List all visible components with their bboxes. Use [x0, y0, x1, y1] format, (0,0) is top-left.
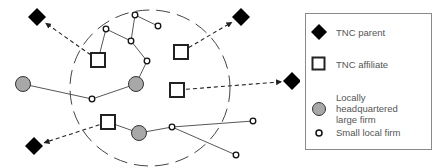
- ownership-arrow: [186, 82, 281, 89]
- tnc-parent-diamond-icon: [25, 137, 43, 155]
- tnc-parent-diamond-icon: [283, 72, 300, 90]
- ownership-arrow: [189, 23, 232, 48]
- legend-label: Locally headquartered large firm: [336, 92, 418, 125]
- ownership-linkages: [44, 23, 281, 143]
- small-firm-circle-icon: [128, 38, 134, 44]
- tnc-affiliate-square-icon: [91, 53, 105, 67]
- firm-network-diagram: [0, 0, 300, 168]
- small-firm-circle-icon: [103, 26, 109, 32]
- ownership-arrow: [44, 125, 99, 143]
- small-firm-circle-icon: [89, 96, 95, 102]
- tnc-parent-diamond-icon: [28, 8, 46, 26]
- firm-nodes: [16, 8, 301, 158]
- small-firm-circle-icon: [169, 124, 175, 130]
- local-region-boundary: [70, 10, 230, 166]
- local-region-dashed-boundary: [70, 10, 230, 166]
- tnc-parent-diamond-icon: [232, 8, 250, 26]
- legend-label: TNC parent: [336, 27, 385, 38]
- hollow-square-icon: [311, 56, 327, 72]
- tnc-affiliate-square-icon: [174, 45, 188, 59]
- small-hollow-circle-icon: [314, 128, 324, 138]
- legend-label: Small local firm: [336, 127, 400, 138]
- large-firm-circle-icon: [129, 77, 144, 92]
- small-firm-circle-icon: [250, 118, 256, 124]
- small-firm-circle-icon: [233, 152, 239, 158]
- ownership-arrow: [46, 23, 91, 54]
- large-firm-circle-icon: [132, 126, 147, 141]
- local-link: [172, 127, 236, 155]
- grey-circle-icon: [311, 101, 327, 117]
- legend-item-tnc-parent: TNC parent: [306, 24, 431, 40]
- local-link: [106, 29, 131, 41]
- black-diamond-icon: [311, 24, 327, 40]
- local-link: [131, 15, 135, 41]
- small-firm-circle-icon: [132, 12, 138, 18]
- tnc-affiliate-square-icon: [170, 83, 184, 97]
- legend: TNC parent TNC affiliate Locally headqua…: [305, 13, 432, 150]
- local-link: [131, 41, 147, 61]
- tnc-affiliate-square-icon: [101, 115, 115, 129]
- small-firm-circle-icon: [155, 23, 161, 29]
- legend-item-large-firm: Locally headquartered large firm: [306, 92, 431, 125]
- local-link: [172, 121, 253, 127]
- legend-item-tnc-affiliate: TNC affiliate: [306, 56, 431, 72]
- legend-label: TNC affiliate: [336, 59, 388, 70]
- large-firm-circle-icon: [16, 77, 31, 92]
- legend-item-small-firm: Small local firm: [306, 127, 431, 138]
- small-firm-circle-icon: [144, 58, 150, 64]
- local-link: [23, 84, 92, 99]
- local-link: [135, 15, 158, 26]
